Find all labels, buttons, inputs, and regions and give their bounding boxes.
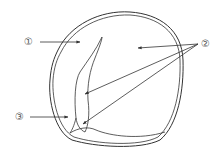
label-1: ①	[24, 37, 33, 47]
radicle-outline	[70, 128, 165, 137]
endosperm-boundary	[70, 118, 76, 133]
seed-cross-section-drawing	[0, 0, 224, 157]
arrow-2b	[85, 44, 198, 94]
label-2: ②	[201, 39, 210, 49]
arrow-2a	[138, 44, 198, 48]
seed-coat-outer	[50, 12, 183, 147]
embryo-outline	[75, 37, 102, 132]
arrow-2c	[83, 44, 198, 124]
seed-coat-inner	[53, 15, 180, 143]
label-3: ③	[15, 112, 24, 122]
seed-diagram: ① ② ③	[0, 0, 224, 157]
